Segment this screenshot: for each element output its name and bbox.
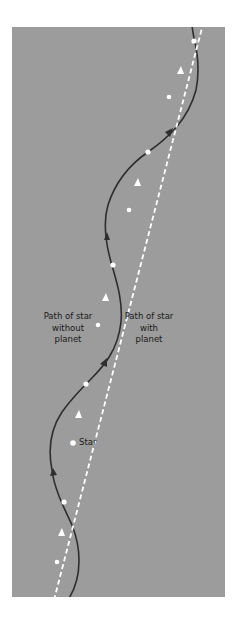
- intersection-dot-icon: [110, 262, 115, 267]
- star-path-diagram: [0, 0, 238, 620]
- intersection-dot-icon: [145, 149, 150, 154]
- label-line: Path of star: [118, 311, 180, 323]
- label-path-with-planet: Path of star with planet: [118, 311, 180, 346]
- label-star: Star: [79, 437, 96, 449]
- intersection-dot-icon: [61, 499, 66, 504]
- intersection-dot-icon: [191, 38, 196, 43]
- line-arrow-icon: [75, 410, 82, 418]
- position-dot-icon: [167, 95, 172, 100]
- label-line: Path of star: [37, 311, 99, 323]
- position-dot-icon: [55, 560, 60, 565]
- position-dot-icon: [127, 208, 132, 213]
- label-line: without: [37, 323, 99, 335]
- line-arrow-icon: [134, 178, 141, 186]
- intersection-dot-icon: [83, 381, 88, 386]
- label-path-without-planet: Path of star without planet: [37, 311, 99, 346]
- label-line: with: [118, 323, 180, 335]
- line-arrow-icon: [58, 528, 65, 536]
- line-arrow-icon: [102, 293, 109, 301]
- star-marker-icon: [70, 440, 76, 446]
- line-arrow-icon: [177, 66, 184, 74]
- label-line: planet: [118, 334, 180, 346]
- label-line: planet: [37, 334, 99, 346]
